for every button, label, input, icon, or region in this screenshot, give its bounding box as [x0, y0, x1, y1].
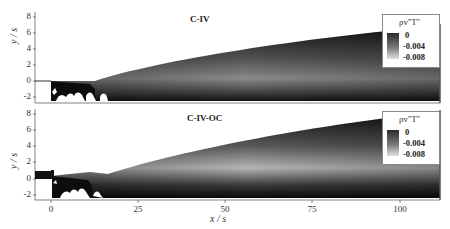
bottom-ytick-4: 4: [17, 140, 31, 150]
x-axis-title: x / s: [210, 213, 226, 224]
top-ytick-8: 8: [17, 11, 31, 21]
bottom-legend-label-1: -0.004: [403, 138, 425, 148]
bottom-ytick-0: 0: [17, 173, 31, 183]
figure: 8 6 4 2 0 -2 y / s C-IV ρv''T'' 0 -0.004…: [0, 0, 450, 229]
xtick-25: 25: [126, 204, 150, 214]
bottom-panel: [33, 109, 440, 203]
bottom-ytick-6: 6: [17, 124, 31, 134]
top-colorbar: [387, 33, 399, 59]
top-legend-title: ρv''T'': [399, 17, 420, 27]
top-ytick-2: 2: [17, 59, 31, 69]
top-y-axis-title: y / s: [8, 28, 19, 44]
top-ytick-4: 4: [17, 43, 31, 53]
top-colorbar-legend: ρv''T'' 0 -0.004 -0.008: [382, 14, 440, 68]
bottom-legend-label-0: 0: [405, 127, 409, 137]
bottom-ytick-8: 8: [17, 108, 31, 118]
xtick-100: 100: [388, 204, 412, 214]
bottom-ytick-2: 2: [17, 156, 31, 166]
top-panel-title: C-IV: [190, 14, 210, 24]
top-ytick-0: 0: [17, 75, 31, 85]
bottom-legend-title: ρv''T'': [399, 114, 420, 124]
top-legend-label-2: -0.008: [403, 52, 425, 62]
xtick-75: 75: [300, 204, 324, 214]
bottom-y-axis-title: y / s: [8, 153, 19, 169]
bottom-panel-title: C-IV-OC: [187, 113, 222, 123]
top-panel: [33, 12, 440, 103]
top-legend-label-0: 0: [405, 30, 409, 40]
top-ytick-neg2: -2: [17, 91, 31, 101]
xtick-0: 0: [39, 204, 63, 214]
bottom-colorbar-legend: ρv''T'' 0 -0.004 -0.008: [382, 111, 440, 165]
top-legend-label-1: -0.004: [403, 41, 425, 51]
bottom-ytick-neg2: -2: [17, 189, 31, 199]
bottom-legend-label-2: -0.008: [403, 149, 425, 159]
bottom-colorbar: [387, 130, 399, 156]
top-ytick-6: 6: [17, 27, 31, 37]
